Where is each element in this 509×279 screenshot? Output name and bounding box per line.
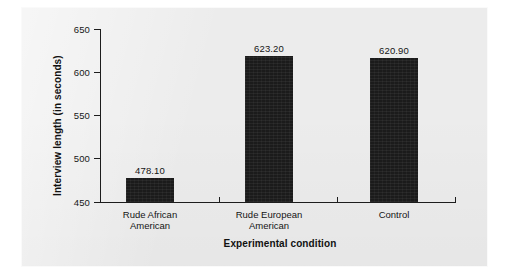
y-tick-label-600: 600 xyxy=(50,67,90,78)
y-tick-label-650: 650 xyxy=(50,24,90,35)
x-axis-title: Experimental condition xyxy=(160,238,400,249)
bar-control[interactable] xyxy=(370,58,418,202)
y-tick-label-500: 500 xyxy=(50,153,90,164)
x-tick-end xyxy=(455,197,456,202)
x-category-label-3: Control xyxy=(349,209,439,220)
x-category-label-1-line-1: Rude African xyxy=(105,209,195,220)
x-category-label-3-line-1: Control xyxy=(349,209,439,220)
bar-value-label-1: 478.10 xyxy=(120,165,180,176)
y-tick-label-450: 450 xyxy=(50,197,90,208)
x-category-label-1-line-2: American xyxy=(105,220,195,231)
bar-chart: Interview length (in seconds) 650 600 55… xyxy=(0,0,509,279)
y-tick-600 xyxy=(94,72,100,73)
y-tick-550 xyxy=(94,115,100,116)
y-tick-650 xyxy=(94,29,100,30)
x-category-label-2: Rude European American xyxy=(224,209,314,231)
x-category-label-2-line-1: Rude European xyxy=(224,209,314,220)
x-tick-1 xyxy=(219,197,220,202)
bar-value-label-3: 620.90 xyxy=(364,45,424,56)
y-axis-line xyxy=(100,29,101,203)
bar-rude-african-american[interactable] xyxy=(126,178,174,202)
bar-rude-european-american[interactable] xyxy=(245,56,293,202)
y-tick-label-550: 550 xyxy=(50,110,90,121)
y-tick-450 xyxy=(94,202,100,203)
bar-value-label-2: 623.20 xyxy=(239,43,299,54)
x-axis-line xyxy=(100,202,456,203)
x-category-label-2-line-2: American xyxy=(224,220,314,231)
y-tick-500 xyxy=(94,158,100,159)
x-category-label-1: Rude African American xyxy=(105,209,195,231)
x-tick-2 xyxy=(337,197,338,202)
x-tick-start xyxy=(100,197,101,202)
